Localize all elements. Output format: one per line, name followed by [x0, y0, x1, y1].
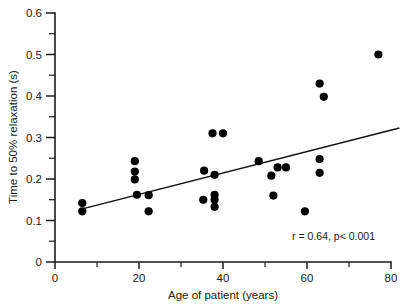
x-axis-title: Age of patient (years) [168, 289, 278, 301]
x-tick-label: 40 [217, 272, 230, 284]
y-axis-title: Time to 50% relaxation (s) [7, 70, 19, 204]
x-tick-label: 80 [385, 272, 398, 284]
data-point [282, 163, 290, 171]
scatter-plot-figure: 0.6 0.5 0.4 0.3 0.2 0.1 0 0 20 40 60 80 … [0, 0, 406, 304]
data-point [267, 172, 275, 180]
data-point [145, 207, 153, 215]
x-axis-tick-labels: 0 20 40 60 80 [52, 272, 398, 284]
data-point [274, 163, 282, 171]
data-point [145, 191, 153, 199]
data-point [320, 93, 328, 101]
data-point [374, 50, 382, 58]
data-point [211, 196, 219, 204]
data-point [211, 203, 219, 211]
data-point [316, 155, 324, 163]
data-point [219, 129, 227, 137]
y-tick-label: 0.4 [26, 90, 43, 102]
data-point [211, 171, 219, 179]
x-tick-label: 0 [52, 272, 58, 284]
y-tick-label: 0.3 [26, 132, 42, 144]
data-point [269, 192, 277, 200]
x-tick-label: 20 [133, 272, 146, 284]
data-point [199, 196, 207, 204]
y-tick-label: 0.1 [26, 215, 42, 227]
y-axis-tick-labels: 0.6 0.5 0.4 0.3 0.2 0.1 0 [26, 7, 43, 268]
data-point [301, 207, 309, 215]
data-point [131, 157, 139, 165]
data-point [255, 157, 263, 165]
correlation-annotation: r = 0.64, p< 0.001 [292, 230, 375, 242]
y-axis-major-ticks [46, 13, 55, 262]
regression-line [82, 128, 399, 209]
data-point [200, 167, 208, 175]
data-point [208, 129, 216, 137]
x-axis-major-ticks [55, 262, 391, 269]
x-tick-label: 60 [301, 272, 314, 284]
data-point [316, 169, 324, 177]
data-point [133, 191, 141, 199]
y-tick-label: 0 [36, 256, 42, 268]
data-point [78, 207, 86, 215]
plot-canvas: 0.6 0.5 0.4 0.3 0.2 0.1 0 0 20 40 60 80 … [0, 0, 406, 304]
data-point [131, 175, 139, 183]
y-tick-label: 0.6 [26, 7, 42, 19]
y-tick-label: 0.5 [26, 49, 42, 61]
data-point [131, 167, 139, 175]
data-point [78, 199, 86, 207]
data-point [316, 79, 324, 87]
data-points-group [78, 50, 382, 215]
y-tick-label: 0.2 [26, 173, 42, 185]
